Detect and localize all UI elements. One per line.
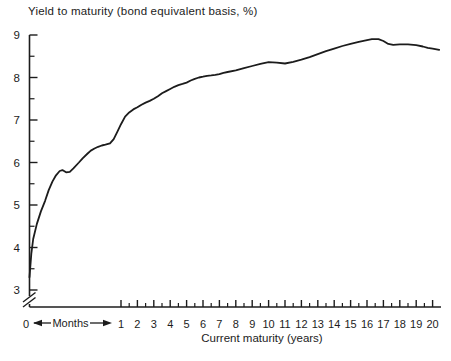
months-arrow-left-icon <box>33 320 42 327</box>
x-axis-tick-label: 1 <box>118 318 124 330</box>
x-axis-tick-label: 15 <box>344 318 356 330</box>
x-axis-tick-label: 3 <box>151 318 157 330</box>
x-axis-tick-label: 11 <box>279 318 290 330</box>
x-axis-tick-label: 20 <box>426 318 438 330</box>
x-axis-tick-label: 2 <box>134 318 140 330</box>
yield-curve-plot: 987654312345678910111213141516171819200M… <box>0 0 451 361</box>
y-axis-tick-label: 6 <box>14 157 20 169</box>
x-axis-tick-label: 16 <box>361 318 373 330</box>
x-axis-tick-label: 8 <box>233 318 239 330</box>
x-axis-origin-label: 0 <box>23 318 29 330</box>
x-axis-tick-label: 4 <box>167 318 173 330</box>
x-axis-tick-label: 9 <box>249 318 255 330</box>
x-axis-tick-label: 14 <box>328 318 340 330</box>
x-axis-tick-label: 7 <box>216 318 222 330</box>
x-axis-tick-label: 5 <box>184 318 190 330</box>
y-axis-tick-label: 3 <box>14 284 20 296</box>
months-segment-label: Months <box>52 317 89 329</box>
x-axis-tick-label: 18 <box>394 318 406 330</box>
months-arrow-right-icon <box>103 320 112 327</box>
x-axis-tick-label: 13 <box>312 318 324 330</box>
x-axis-tick-label: 19 <box>410 318 422 330</box>
y-axis-tick-label: 8 <box>14 72 20 84</box>
yield-curve-line <box>30 39 440 277</box>
yield-curve-figure: Yield to maturity (bond equivalent basis… <box>0 0 451 361</box>
y-axis-tick-label: 9 <box>14 29 20 41</box>
y-axis-tick-label: 5 <box>14 199 20 211</box>
x-axis-tick-label: 6 <box>200 318 206 330</box>
x-axis-tick-label: 17 <box>377 318 389 330</box>
x-axis-tick-label: 12 <box>295 318 307 330</box>
y-axis-tick-label: 4 <box>14 242 21 254</box>
x-axis-tick-label: 10 <box>262 318 274 330</box>
x-axis-title: Current maturity (years) <box>201 332 323 344</box>
y-axis-tick-label: 7 <box>14 114 20 126</box>
